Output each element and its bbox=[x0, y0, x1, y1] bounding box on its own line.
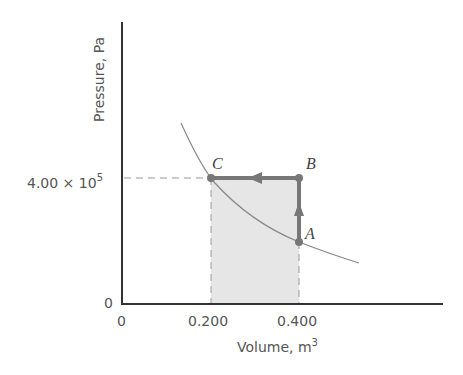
point-b bbox=[295, 174, 303, 182]
y-axis-title: Pressure, Pa bbox=[91, 37, 107, 122]
x-tick-0200: 0.200 bbox=[188, 313, 228, 329]
pv-diagram: A B C 4.00 × 105 0 0 0.200 0.400 Volume,… bbox=[0, 0, 463, 375]
x-axis-title: Volume, m3 bbox=[237, 337, 318, 355]
label-b: B bbox=[306, 155, 316, 172]
point-a bbox=[295, 238, 303, 246]
y-tick-0: 0 bbox=[104, 295, 113, 311]
y-tick-4e5: 4.00 × 105 bbox=[27, 172, 103, 191]
label-c: C bbox=[212, 155, 223, 172]
x-tick-0400: 0.400 bbox=[277, 313, 317, 329]
x-tick-0: 0 bbox=[117, 313, 126, 329]
work-area bbox=[211, 178, 299, 304]
point-c bbox=[207, 174, 215, 182]
label-a: A bbox=[304, 225, 315, 242]
